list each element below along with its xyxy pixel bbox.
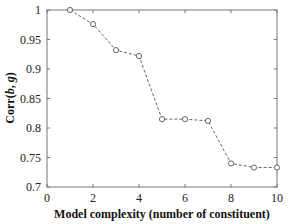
data-point-marker [113,48,118,53]
data-point-marker [159,117,164,122]
data-point-marker [90,22,95,27]
y-tick-label: 0.7 [26,180,41,194]
x-axis-title: Model complexity (number of constituent) [54,207,270,221]
line-chart: 0246810 0.70.750.80.850.90.951 Model com… [0,0,290,224]
y-tick-label: 0.9 [26,62,41,76]
y-tick-label: 0.95 [20,33,41,47]
x-tick-label: 6 [182,191,188,205]
data-point-marker [251,165,256,170]
data-point-marker [228,161,233,166]
x-tick-label: 10 [271,191,283,205]
y-tick-label: 1 [35,3,41,17]
y-tick-label: 0.85 [20,92,41,106]
x-tick-label: 4 [136,191,142,205]
plot-area [47,10,277,187]
data-point-marker [136,53,141,58]
data-point-marker [182,117,187,122]
y-tick-label: 0.75 [20,151,41,165]
x-tick-label: 8 [228,191,234,205]
y-tick-label: 0.8 [26,121,41,135]
data-point-marker [274,165,279,170]
x-tick-label: 2 [90,191,96,205]
data-point-marker [67,7,72,12]
data-point-marker [205,118,210,123]
y-axis-title: Corr(b, g) [3,72,17,123]
x-tick-label: 0 [44,191,50,205]
